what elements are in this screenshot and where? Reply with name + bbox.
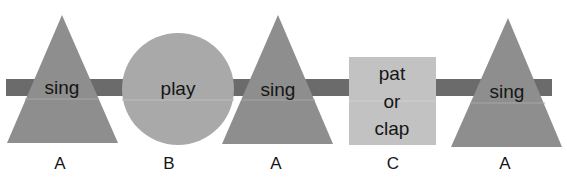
section-letter-3: A: [270, 154, 282, 173]
shape-4-label-line-1: pat: [379, 63, 406, 84]
shape-3-label: sing: [261, 79, 296, 100]
shape-1-label: sing: [45, 77, 80, 98]
shape-2-circle: play: [122, 33, 234, 145]
shape-4-square: pat or clap: [349, 57, 436, 145]
shape-2-label: play: [161, 78, 196, 99]
section-letter-2: B: [163, 154, 174, 173]
form-diagram: sing play sing pat or clap sing A B A C …: [0, 0, 567, 181]
section-letter-1: A: [54, 154, 66, 173]
shape-5-label: sing: [490, 81, 525, 102]
section-letter-4: C: [387, 154, 399, 173]
shape-4-label-line-2: or: [384, 91, 402, 112]
shape-4-label-line-3: clap: [375, 118, 410, 139]
section-letter-5: A: [499, 154, 511, 173]
